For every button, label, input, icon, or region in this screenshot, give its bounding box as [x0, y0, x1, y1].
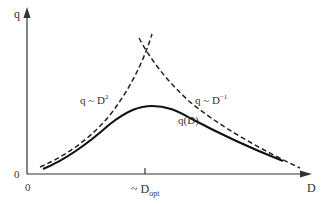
curve-q-of-d: [43, 106, 283, 169]
x-origin-label: 0: [25, 181, 31, 193]
label-q-d-inverse: q ~ D−1: [195, 93, 228, 106]
label-q-d-squared: q ~ D2: [80, 93, 109, 106]
scaling-diagram: q 0 0 D ~ Dopt q ~ D2 q ~ D−1 q(D): [0, 0, 328, 204]
y-origin-label: 0: [14, 168, 20, 180]
diagram-canvas: q 0 0 D ~ Dopt q ~ D2 q ~ D−1 q(D): [0, 0, 328, 204]
y-axis-arrow-icon: [24, 7, 31, 18]
x-axis-arrow-icon: [300, 171, 312, 178]
d-opt-label: ~ Dopt: [131, 182, 160, 198]
x-axis-label: D: [307, 181, 316, 195]
y-axis-label: q: [14, 7, 20, 21]
label-q-of-d: q(D): [178, 114, 199, 127]
